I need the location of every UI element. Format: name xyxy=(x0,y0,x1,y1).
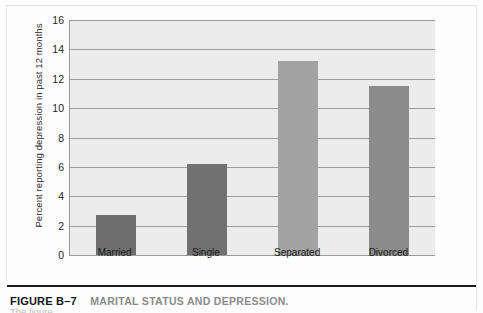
plot-area: 0246810121416 xyxy=(69,20,435,256)
y-axis-tick-label: 6 xyxy=(58,161,64,173)
bar xyxy=(278,61,318,255)
y-axis-tick-label: 10 xyxy=(52,102,64,114)
caption-body-text: The figure xyxy=(10,306,53,313)
x-axis-tick-label: Single xyxy=(192,247,220,258)
gridline xyxy=(70,79,435,80)
x-axis-tick-label: Married xyxy=(98,247,132,258)
figure-chart: Percent reporting depression in past 12 … xyxy=(0,0,483,282)
y-axis-tick-label: 16 xyxy=(52,14,64,26)
gridline xyxy=(70,20,435,21)
gridline xyxy=(70,49,435,50)
caption-divider xyxy=(7,285,476,287)
x-axis-tick-label: Separated xyxy=(274,247,320,258)
bar xyxy=(369,86,409,255)
y-axis-label: Percent reporting depression in past 12 … xyxy=(33,10,44,242)
y-axis-tick-label: 0 xyxy=(58,249,64,261)
y-axis-tick-label: 4 xyxy=(58,190,64,202)
y-axis-tick-label: 12 xyxy=(52,73,64,85)
bar xyxy=(187,164,227,255)
page: Percent reporting depression in past 12 … xyxy=(0,0,483,313)
x-axis-tick-label: Divorced xyxy=(369,247,408,258)
y-axis-tick-label: 14 xyxy=(52,43,64,55)
y-axis-tick-label: 8 xyxy=(58,132,64,144)
y-axis-tick-label: 2 xyxy=(58,220,64,232)
caption-title: MARITAL STATUS AND DEPRESSION. xyxy=(90,295,289,307)
